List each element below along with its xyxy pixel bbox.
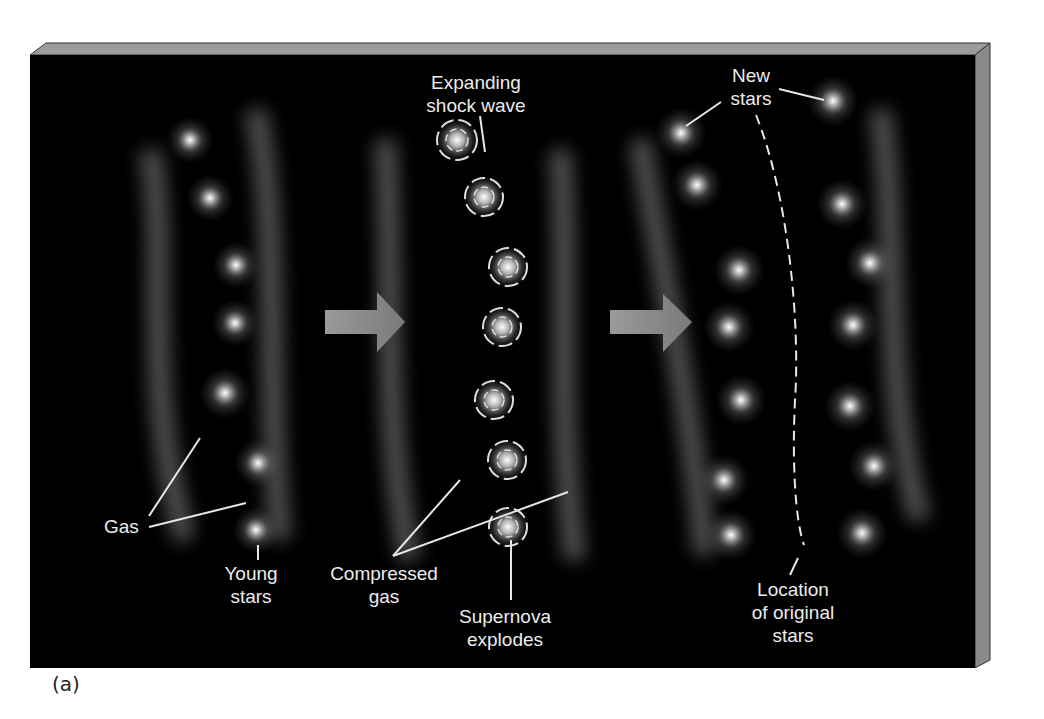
board-top-edge (30, 43, 990, 55)
label-location-line2: of original (752, 602, 834, 623)
panel-label: (a) (52, 672, 80, 696)
label-compressed-line2: gas (369, 586, 400, 607)
label-location-line1: Location (757, 579, 829, 600)
label-young-stars-line2: stars (230, 586, 271, 607)
board-side-edge (975, 43, 990, 668)
label-gas: Gas (104, 516, 139, 537)
label-supernova-line1: Supernova (459, 606, 551, 627)
label-expanding-line2: shock wave (426, 95, 525, 116)
label-new-stars-line1: New (732, 65, 770, 86)
label-young-stars-line1: Young (224, 563, 277, 584)
label-expanding-line1: Expanding (431, 72, 521, 93)
label-new-stars-line2: stars (730, 88, 771, 109)
label-supernova-line2: explodes (467, 629, 543, 650)
label-compressed-line1: Compressed (330, 563, 438, 584)
label-location-line3: stars (772, 625, 813, 646)
star-formation-diagram: Gas Young stars Expanding shock wave Com… (0, 0, 1044, 719)
